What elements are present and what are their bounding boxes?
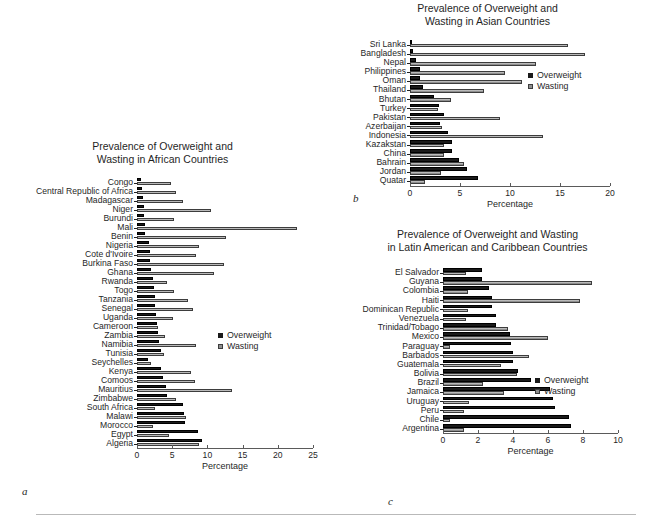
bar-wasting: [443, 318, 466, 322]
bar-row: El Salvador: [443, 268, 618, 277]
bar-wasting: [410, 89, 484, 93]
bar-pair: [443, 424, 618, 431]
axis-tick-label: 0: [135, 450, 140, 460]
panel-letter-a: a: [22, 485, 28, 497]
bar-overweight: [443, 342, 511, 346]
bar-pair: [137, 412, 313, 419]
bar-wasting: [410, 44, 568, 48]
axis-tick-label: 10: [613, 435, 623, 445]
bar-pair: [443, 314, 618, 321]
bar-row: Jamaica: [443, 387, 618, 396]
bar-pair: [443, 397, 618, 404]
category-label: Thailand: [373, 85, 410, 94]
bar-pair: [410, 149, 610, 156]
bar-wasting: [410, 144, 444, 148]
bar-row: South Africa: [137, 403, 313, 412]
bar-row: Algeria: [137, 439, 313, 448]
bar-pair: [443, 351, 618, 358]
bar-row: Togo: [137, 286, 313, 295]
bar-row: Kazakstan: [410, 140, 610, 149]
bar-wasting: [137, 236, 226, 239]
bar-wasting: [443, 309, 468, 313]
bar-wasting: [137, 425, 153, 428]
axis-title: Percentage: [137, 461, 313, 471]
bar-wasting: [137, 281, 167, 284]
bar-wasting: [443, 299, 580, 303]
bar-row: Argentina: [443, 424, 618, 433]
bar-pair: [443, 387, 618, 394]
bar-wasting: [410, 80, 522, 84]
axis-tick-icon: [510, 183, 511, 186]
axis-tick-icon: [548, 430, 549, 433]
panel-african-countries: Prevalence of Overweight and Wasting in …: [0, 140, 325, 474]
axis-tick-icon: [460, 183, 461, 186]
bar-wasting: [137, 227, 297, 230]
category-label: Pakistan: [373, 113, 410, 122]
bar-wasting: [137, 218, 174, 221]
bar-pair: [443, 305, 618, 312]
axis-tick-label: 4: [511, 435, 516, 445]
bar-row: Nigeria: [137, 241, 313, 250]
bar-row: Peru: [443, 406, 618, 415]
bar-wasting: [137, 380, 195, 383]
panel-b-legend: Overweight Wasting: [528, 70, 582, 92]
bar-pair: [443, 323, 618, 330]
panel-c-legend: Overweight Wasting: [535, 375, 589, 397]
axis-tick-icon: [278, 445, 279, 448]
axis-line: [137, 448, 313, 449]
bar-pair: [410, 122, 610, 129]
category-label: Jamaica: [407, 387, 443, 396]
bar-row: Turkey: [410, 104, 610, 113]
axis-tick-label: 15: [555, 188, 565, 198]
bar-row: Central Republic of Africa: [137, 187, 313, 196]
bar-row: Morocco: [137, 421, 313, 430]
category-label: Turkey: [380, 104, 410, 113]
bar-row: China: [410, 149, 610, 158]
bar-row: Barbados: [443, 351, 618, 360]
bar-pair: [137, 394, 313, 401]
bar-row: Zimbabwe: [137, 394, 313, 403]
axis-line: [410, 186, 610, 187]
bar-wasting: [410, 62, 536, 66]
bar-row: Comoos: [137, 376, 313, 385]
bar-wasting: [410, 108, 438, 112]
axis-line: [443, 433, 618, 434]
bar-overweight: [443, 415, 569, 419]
bar-pair: [137, 241, 313, 248]
bar-row: Benin: [137, 232, 313, 241]
bar-pair: [443, 369, 618, 376]
bar-wasting: [137, 416, 186, 419]
bar-pair: [443, 332, 618, 339]
bar-wasting: [443, 272, 466, 276]
axis-title: Percentage: [443, 446, 618, 456]
bar-pair: [137, 178, 313, 185]
bar-wasting: [137, 290, 174, 293]
bar-row: Jordan: [410, 167, 610, 176]
legend-label-overweight: Overweight: [544, 375, 589, 386]
bar-row: Indonesia: [410, 131, 610, 140]
bar-wasting: [137, 317, 173, 320]
axis-tick-label: 20: [273, 450, 283, 460]
bar-pair: [137, 313, 313, 320]
bar-pair: [137, 286, 313, 293]
bar-pair: [443, 296, 618, 303]
axis-tick-label: 25: [308, 450, 318, 460]
bar-wasting: [443, 355, 529, 359]
bar-row: Pakistan: [410, 113, 610, 122]
bar-row: Chile: [443, 415, 618, 424]
legend-item-wasting: Wasting: [218, 341, 272, 352]
bar-wasting: [137, 191, 176, 194]
bar-pair: [410, 49, 610, 56]
bar-row: Colombia: [443, 286, 618, 295]
bar-wasting: [137, 272, 214, 275]
legend-item-overweight: Overweight: [218, 330, 272, 341]
bar-pair: [137, 403, 313, 410]
legend-swatch-overweight-icon: [535, 378, 540, 383]
bar-pair: [443, 268, 618, 275]
axis-tick-label: 0: [441, 435, 446, 445]
axis-tick-icon: [610, 183, 611, 186]
bar-row: Mexico: [443, 332, 618, 341]
axis-tick-icon: [172, 445, 173, 448]
bar-row: Bahrain: [410, 158, 610, 167]
bar-wasting: [137, 443, 199, 446]
